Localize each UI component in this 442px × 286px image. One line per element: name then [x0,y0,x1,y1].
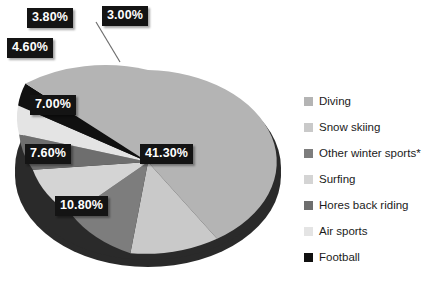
chart-legend: Diving Snow skiing Other winter sports* … [304,88,442,270]
legend-swatch-icon [304,149,313,158]
legend-label: Surfing [319,173,355,185]
legend-label: Diving [319,95,351,107]
data-label-snow-skiing: 10.80% [55,196,108,216]
legend-swatch-icon [304,227,313,236]
legend-swatch-icon [304,175,313,184]
legend-swatch-icon [304,97,313,106]
legend-swatch-icon [304,201,313,210]
data-label-other-winter-sports: 7.60% [25,144,71,164]
legend-swatch-icon [304,253,313,262]
data-label-air-sports: 3.80% [27,8,73,28]
legend-item-air-sports[interactable]: Air sports [304,218,442,244]
leader-line-air-sports [96,22,120,62]
data-label-football: 3.00% [102,6,148,26]
legend-item-snow-skiing[interactable]: Snow skiing [304,114,442,140]
data-label-surfing: 7.00% [30,95,76,115]
pie-plot-area: 3.80% 3.00% 4.60% 7.00% 7.60% 10.80% 41.… [0,0,300,286]
legend-label: Air sports [319,225,368,237]
legend-item-other-winter-sports[interactable]: Other winter sports* [304,140,442,166]
legend-label: Football [319,251,360,263]
legend-label: Other winter sports* [319,147,421,159]
legend-item-diving[interactable]: Diving [304,88,442,114]
pie-chart: 3.80% 3.00% 4.60% 7.00% 7.60% 10.80% 41.… [0,0,442,286]
legend-label: Snow skiing [319,121,380,133]
legend-swatch-icon [304,123,313,132]
legend-item-hores-back-riding[interactable]: Hores back riding [304,192,442,218]
legend-label: Hores back riding [319,199,408,211]
data-label-diving: 41.30% [140,144,193,164]
legend-item-surfing[interactable]: Surfing [304,166,442,192]
legend-item-football[interactable]: Football [304,244,442,270]
data-label-hores-back-riding: 4.60% [7,38,53,58]
